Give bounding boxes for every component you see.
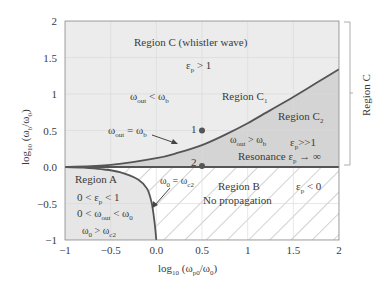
x-tick-label: 0.5 — [195, 244, 209, 256]
x-axis-label: log10 (ωp0/ω0) — [158, 262, 218, 277]
x-tick-label: 1.5 — [286, 244, 300, 256]
point-1-label: 1 — [191, 123, 197, 135]
point-2-label: 2 — [191, 156, 197, 168]
region-b-label: Region B — [218, 180, 260, 192]
y-tick-label: −0.5 — [37, 198, 57, 210]
y-axis-ticks: −1−0.50.00.511.52 — [37, 15, 57, 246]
x-axis-ticks: −1−0.50.00.511.52 — [59, 244, 342, 256]
y-tick-label: −1 — [45, 234, 57, 246]
y-tick-label: 0.5 — [43, 125, 57, 137]
x-tick-label: −0.5 — [101, 244, 121, 256]
region-c-title: Region C (whistler wave) — [134, 36, 248, 49]
x-tick-label: −1 — [59, 244, 71, 256]
point-2-marker — [199, 163, 205, 169]
no-propagation-label: No propagation — [203, 194, 272, 206]
region-c-bracket — [344, 22, 353, 165]
y-tick-label: 1 — [52, 88, 58, 100]
region-a-label: Region A — [75, 173, 117, 185]
y-tick-label: 0.0 — [43, 161, 57, 173]
x-tick-label: 1 — [245, 244, 251, 256]
y-tick-label: 1.5 — [43, 52, 57, 64]
point-1-marker — [199, 128, 205, 134]
x-tick-label: 0.0 — [149, 244, 163, 256]
region-c-bracket-label: Region C — [360, 74, 372, 116]
region-diagram-chart: −1−0.50.00.511.52 −1−0.50.00.511.52 1 2 … — [0, 0, 387, 289]
x-tick-label: 2 — [336, 244, 342, 256]
y-axis-label: log10 (ωb/ω0) — [19, 109, 34, 165]
y-tick-label: 2 — [52, 15, 58, 27]
